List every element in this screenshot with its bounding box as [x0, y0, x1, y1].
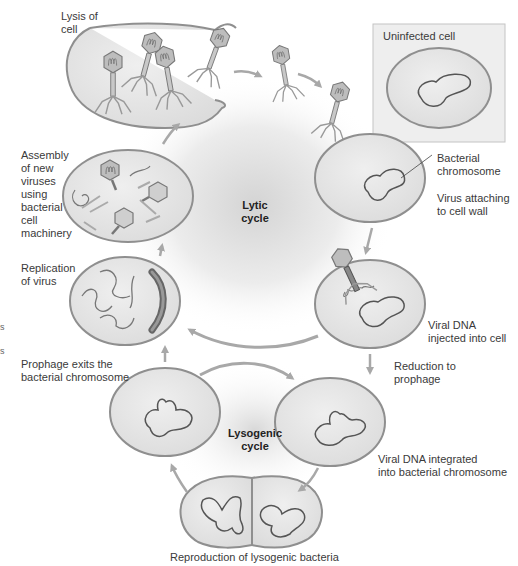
edge-text-fragment: s: [0, 322, 5, 332]
label-virus-attaching: Virus attaching to cell wall: [437, 192, 510, 218]
label-reproduction: Reproduction of lysogenic bacteria: [170, 551, 339, 564]
label-bacterial-chromosome: Bacterial chromosome: [437, 152, 501, 178]
label-viral-dna-injected: Viral DNA injected into cell: [428, 319, 506, 345]
edge-text-fragment: s: [0, 346, 5, 356]
diagram-canvas: [0, 0, 518, 566]
lytic-cycle-label: Lytic cycle: [232, 199, 278, 225]
label-lysis-of-cell: Lysis of cell: [61, 10, 98, 36]
label-prophage-exits: Prophage exits the bacterial chromosome: [21, 358, 129, 384]
label-uninfected-cell: Uninfected cell: [383, 30, 455, 43]
dividing-cells: [181, 476, 322, 547]
attaching-cell: [315, 134, 432, 222]
label-replication: Replication of virus: [21, 262, 75, 288]
lifecycle-diagram: Lytic cycle Lysogenic cycle Lysis of cel…: [0, 0, 518, 566]
label-viral-dna-integrated: Viral DNA integrated into bacterial chro…: [378, 453, 507, 479]
label-assembly: Assembly of new viruses using bacterial …: [21, 149, 72, 240]
assembly-cell: [63, 150, 193, 242]
lysis-cell: [67, 23, 240, 128]
integrated-cell: [275, 378, 385, 466]
replication-cell: [70, 257, 180, 345]
label-reduction-to-prophage: Reduction to prophage: [394, 360, 456, 386]
lysogenic-cycle-label: Lysogenic cycle: [222, 427, 288, 453]
